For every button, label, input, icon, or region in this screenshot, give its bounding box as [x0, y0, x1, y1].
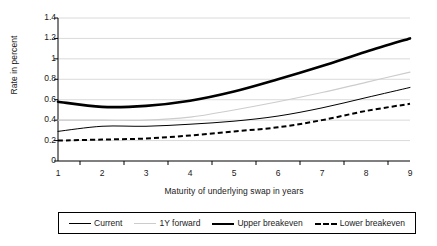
x-axis-label: Maturity of underlying swap in years [58, 186, 410, 196]
legend-item-upper-breakeven[interactable]: Upper breakeven [212, 218, 302, 228]
chart-legend: Current1Y forwardUpper breakevenLower br… [58, 212, 416, 234]
legend-swatch-icon [315, 220, 337, 226]
y-tick-label-0.2: 0.2 [30, 136, 56, 145]
y-tick-label-0.8: 0.8 [30, 74, 56, 83]
x-tick-label-2: 2 [90, 168, 114, 178]
x-tick-label-1: 1 [46, 168, 70, 178]
legend-item-current[interactable]: Current [69, 218, 122, 228]
series-line-upper-breakeven [58, 38, 410, 107]
x-tick-label-8: 8 [354, 168, 378, 178]
series-line-lower-breakeven [58, 104, 410, 141]
legend-label: 1Y forward [159, 218, 200, 228]
x-tick-label-7: 7 [310, 168, 334, 178]
y-tick-label-1.4: 1.4 [30, 13, 56, 22]
legend-item-1y-forward[interactable]: 1Y forward [134, 218, 200, 228]
x-tick-label-9: 9 [398, 168, 422, 178]
y-tick-label-0.4: 0.4 [30, 115, 56, 124]
y-axis-tick-labels: 00.20.40.60.811.21.4 [26, 0, 56, 180]
legend-label: Current [94, 218, 122, 228]
legend-item-lower-breakeven[interactable]: Lower breakeven [315, 218, 405, 228]
legend-swatch-icon [212, 220, 234, 226]
y-tick-label-0.6: 0.6 [30, 95, 56, 104]
legend-swatch-icon [134, 220, 156, 226]
legend-label: Upper breakeven [237, 218, 302, 228]
x-tick-label-3: 3 [134, 168, 158, 178]
x-tick-label-4: 4 [178, 168, 202, 178]
x-tick-label-6: 6 [266, 168, 290, 178]
plot-area [0, 0, 437, 246]
y-axis-label: Rate in percent [9, 10, 19, 120]
legend-swatch-icon [69, 220, 91, 226]
legend-label: Lower breakeven [340, 218, 405, 228]
y-tick-label-0: 0 [30, 156, 56, 165]
y-tick-label-1: 1 [30, 54, 56, 63]
x-tick-label-5: 5 [222, 168, 246, 178]
chart-container: Rate in percent 00.20.40.60.811.21.4 123… [0, 0, 437, 246]
y-tick-label-1.2: 1.2 [30, 33, 56, 42]
